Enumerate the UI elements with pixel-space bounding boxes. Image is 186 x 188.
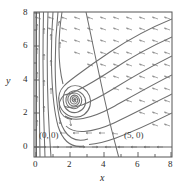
xtick-label-4: 4	[101, 159, 106, 169]
ytick-label-2: 2	[23, 107, 28, 117]
x-axis-label: x	[100, 172, 104, 183]
ytick-label-8: 8	[23, 7, 28, 17]
xtick-label-8: 8	[168, 159, 173, 169]
phase-plane-plot	[0, 0, 186, 188]
equilibrium-label-origin: (0, 0)	[39, 130, 59, 140]
ytick-label-4: 4	[23, 74, 28, 84]
xtick-label-0: 0	[33, 159, 38, 169]
ytick-label-0: 0	[23, 141, 28, 151]
phase-portrait-figure: 8 6 4 2 0 0 2 4 6 8 x y (0, 0) (5, 0)	[0, 0, 186, 188]
spiral-focus-point	[73, 98, 76, 101]
ytick-label-6: 6	[23, 40, 28, 50]
equilibrium-label-five-zero: (5, 0)	[124, 130, 144, 140]
xtick-label-6: 6	[135, 159, 140, 169]
xtick-label-2: 2	[67, 159, 72, 169]
y-axis-label: y	[6, 75, 10, 86]
